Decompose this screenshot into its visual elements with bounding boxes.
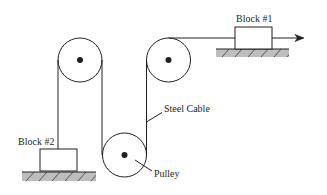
pulley-axle-icon [77,57,83,63]
top-left-pulley [58,38,102,82]
block-2 [40,149,77,171]
ground-block-1 [216,49,294,57]
ground-block-2 [22,172,99,181]
block-1-label: Block #1 [236,13,272,24]
block-1 [235,27,272,49]
pulley-leader-line [135,160,152,171]
steel-cable-label: Steel Cable [164,103,210,114]
pulley-axle-icon [166,57,172,63]
pulley-diagram: Block #1 Block #2 Steel Cable Pulley [0,0,327,195]
block-2-label: Block #2 [18,136,54,147]
bottom-pulley [103,133,147,177]
top-right-pulley [147,38,191,82]
cable-leader-line [147,113,163,123]
pulley-label: Pulley [154,168,180,179]
pulley-axle-icon [122,152,128,158]
